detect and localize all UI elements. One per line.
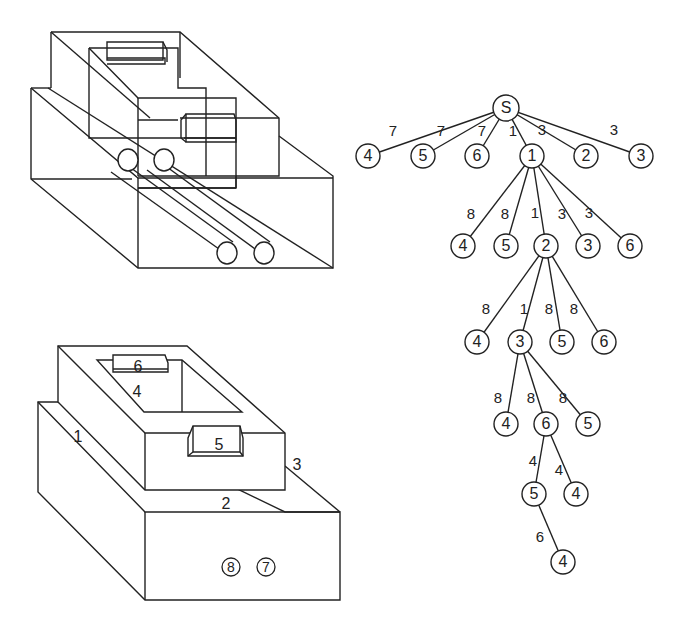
tree-node: 2 xyxy=(574,144,598,168)
tree-node-label: 2 xyxy=(542,237,551,254)
tree-node: 3 xyxy=(508,330,532,354)
tree-node-label: 3 xyxy=(584,237,593,254)
tree-node-label: 3 xyxy=(637,147,646,164)
tree-node: 5 xyxy=(550,330,574,354)
edge-weight: 1 xyxy=(531,204,539,221)
tree-node-label: 3 xyxy=(516,333,525,350)
svg-text:7: 7 xyxy=(262,559,270,575)
tree-edge xyxy=(477,246,546,342)
tree-node: 6 xyxy=(534,412,558,436)
tree-node-label: 5 xyxy=(558,333,567,350)
tree-node-label: 5 xyxy=(419,147,428,164)
edge-weight: 3 xyxy=(610,121,618,138)
edge-weight: 4 xyxy=(529,452,537,469)
top-3d-assembly xyxy=(31,32,333,268)
tree-edge xyxy=(532,156,588,246)
tree-nodes: S456123452364356465544 xyxy=(356,95,653,574)
tree-edge xyxy=(532,156,630,246)
tree-node-label: 6 xyxy=(473,147,482,164)
tree-node-label: 4 xyxy=(459,237,468,254)
tree-node-label: 6 xyxy=(600,333,609,350)
tree-node: 3 xyxy=(576,234,600,258)
tree-node: 4 xyxy=(356,144,380,168)
svg-text:8: 8 xyxy=(227,559,235,575)
edge-weight: 3 xyxy=(538,121,546,138)
tree-node-label: 4 xyxy=(364,147,373,164)
tree-node: 1 xyxy=(520,144,544,168)
tree-node: 5 xyxy=(494,234,518,258)
tree-node-label: 5 xyxy=(530,485,539,502)
part-label: 3 xyxy=(293,456,302,473)
tree-node: 3 xyxy=(629,144,653,168)
edge-weight: 3 xyxy=(558,205,566,222)
edge-weight: 6 xyxy=(536,528,544,545)
tree-node: 4 xyxy=(551,550,575,574)
edge-weight: 8 xyxy=(482,300,490,317)
edge-weight: 8 xyxy=(559,389,567,406)
part-label: 2 xyxy=(222,495,231,512)
edge-weight: 1 xyxy=(509,122,517,139)
circled-part-label: 7 xyxy=(257,558,275,576)
tree-node: 4 xyxy=(465,330,489,354)
tree-node: 4 xyxy=(494,412,518,436)
tree-node-label: 4 xyxy=(473,333,482,350)
tree-edge xyxy=(463,156,532,246)
edge-weight: 8 xyxy=(545,300,553,317)
edge-weight: 1 xyxy=(520,300,528,317)
circled-part-label: 8 xyxy=(222,558,240,576)
part-label: 1 xyxy=(74,428,83,445)
tree-node: 5 xyxy=(522,482,546,506)
diagram-canvas: 64153287 777133881338188888446 S45612345… xyxy=(0,0,684,622)
tree-node: 6 xyxy=(592,330,616,354)
edge-weight: 8 xyxy=(501,205,509,222)
part-label: 6 xyxy=(134,358,143,375)
tree-node-label: 5 xyxy=(502,237,511,254)
edge-weight: 7 xyxy=(478,122,486,139)
tree-node: S xyxy=(493,95,519,121)
tree-edge-weights: 777133881338188888446 xyxy=(389,121,618,545)
tree-edge xyxy=(520,342,546,424)
tree-node-label: 4 xyxy=(502,415,511,432)
tree-node-label: 6 xyxy=(542,415,551,432)
edge-weight: 8 xyxy=(527,389,535,406)
tree-edge xyxy=(532,156,546,246)
tree-edge xyxy=(506,156,532,246)
tree-node: 5 xyxy=(576,412,600,436)
part-label: 5 xyxy=(215,436,224,453)
tree-node-label: 6 xyxy=(626,237,635,254)
tree-node-label: 2 xyxy=(582,147,591,164)
tree-node: 5 xyxy=(411,144,435,168)
tree-node-label: 1 xyxy=(528,147,537,164)
tree-node-label: 4 xyxy=(559,553,568,570)
tree-node: 6 xyxy=(618,234,642,258)
tree-edge xyxy=(520,342,588,424)
edge-weight: 8 xyxy=(467,205,475,222)
tree-node: 4 xyxy=(564,482,588,506)
tree-node: 6 xyxy=(465,144,489,168)
edge-weight: 8 xyxy=(494,389,502,406)
edge-weight: 7 xyxy=(437,122,445,139)
tree-node: 2 xyxy=(534,234,558,258)
tree-node-label: S xyxy=(501,99,512,116)
edge-weight: 7 xyxy=(389,122,397,139)
edge-weight: 8 xyxy=(570,300,578,317)
tree-node-label: 4 xyxy=(572,485,581,502)
tree-node-label: 5 xyxy=(584,415,593,432)
part-label: 4 xyxy=(133,383,142,400)
edge-weight: 3 xyxy=(585,204,593,221)
tree-edge xyxy=(520,246,546,342)
tree-node: 4 xyxy=(451,234,475,258)
edge-weight: 4 xyxy=(555,461,563,478)
